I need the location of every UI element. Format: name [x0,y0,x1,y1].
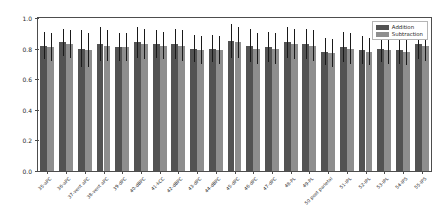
y-tick-label: 1.0 [22,15,32,22]
x-tick [160,171,161,174]
bar [384,50,391,171]
error-bar [287,27,288,58]
legend-item-addition: Addition [376,24,423,30]
error-bar [257,33,258,64]
legend-label-subtraction: Subtraction [392,31,423,37]
error-bar [332,39,333,67]
error-bar [100,27,101,61]
x-tick [291,171,292,174]
error-bar [231,24,232,58]
x-tick [122,171,123,174]
bar [347,49,354,171]
bar [272,49,279,171]
bar [291,44,298,171]
error-bar [81,30,82,67]
bar [190,49,197,171]
bar [265,47,272,171]
error-bar [294,29,295,60]
x-tick [178,171,179,174]
bar [66,44,73,171]
bar [422,46,429,171]
error-bar [63,29,64,57]
bar [78,49,85,171]
error-bar [369,38,370,66]
x-tick-label: 52-IPL [357,176,371,190]
x-tick-label: 40-dBPC [129,176,147,194]
error-bar [306,29,307,60]
error-bar [163,32,164,60]
error-bar [126,33,127,61]
x-tick [253,171,254,174]
x-tick-label: 49-PL [302,176,315,189]
x-tick [366,171,367,174]
error-bar [325,38,326,66]
bar [228,41,235,171]
x-tick-label: 47-dPC [262,176,277,191]
error-bar [268,32,269,63]
bar [359,50,366,171]
x-tick-label: 55-IPS [413,176,427,190]
error-bar [107,30,108,61]
x-tick-label: 48-PL [283,176,296,189]
error-bar [388,36,389,64]
y-tick-label: 0.2 [22,137,32,144]
x-tick-label: 43-dPC [187,176,202,191]
x-tick-label: 53-IPL [376,176,390,190]
error-bar [406,38,407,66]
error-bar [343,32,344,63]
y-tick-label: 0.0 [22,168,32,175]
y-tick [35,49,39,50]
x-tick [328,171,329,174]
bar [59,42,66,171]
x-tick-label: 45-dPC [225,176,240,191]
legend-swatch-subtraction [376,32,389,37]
bar [235,42,242,171]
y-tick [35,171,39,172]
bar [197,50,204,171]
bar-chart-figure: 0.00.20.40.60.81.0 35-aPC36-aPC37-vent a… [0,0,444,222]
bar [216,50,223,171]
chart-legend: Addition Subtraction [372,21,428,40]
x-tick-label: 41-kCC [150,176,165,191]
bar [284,42,291,171]
error-bar [201,36,202,64]
y-tick-label: 0.6 [22,76,32,83]
x-tick-label: 36-aPC [56,176,71,191]
bar [85,50,92,171]
x-tick [85,171,86,174]
y-tick [35,79,39,80]
bar [403,52,410,171]
error-bar [51,33,52,61]
x-tick [347,171,348,174]
y-tick-label: 0.4 [22,106,32,113]
y-tick-label: 0.8 [22,45,32,52]
bar [115,47,122,171]
error-bar [144,29,145,60]
bar [253,49,260,171]
error-bar [238,27,239,58]
error-bar [275,33,276,64]
y-tick [35,110,39,111]
bar [396,50,403,171]
error-bar [362,36,363,64]
error-bar [44,32,45,60]
bar [134,42,141,171]
bar [141,44,148,171]
error-bar [182,30,183,61]
x-tick-label: 51-IPL [339,176,353,190]
error-bar [350,33,351,64]
bar [366,52,373,171]
error-bar [399,36,400,64]
bar [160,46,167,171]
bar [377,49,384,171]
x-tick [216,171,217,174]
error-bar [250,29,251,63]
bar [209,49,216,171]
x-tick [235,171,236,174]
x-tick [141,171,142,174]
x-tick [66,171,67,174]
x-tick-label: 39-dPC [112,176,127,191]
error-bar [219,36,220,64]
x-tick-label: 46-dPC [243,176,258,191]
error-bar [137,27,138,58]
